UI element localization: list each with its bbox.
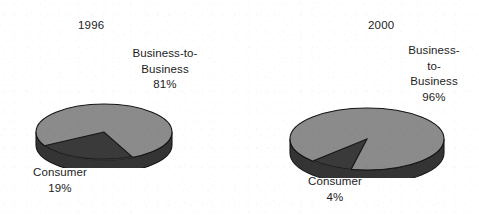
pie-chart-2000 bbox=[288, 102, 446, 178]
chart-panel-1996: 1996 Business-to- Business 81% Consumer … bbox=[0, 0, 239, 215]
chart-panel-2000: 2000 Business- to- Business 96% Consumer… bbox=[240, 0, 479, 215]
pie-chart-1996 bbox=[34, 98, 174, 168]
slice-label-line-1: Business- bbox=[391, 43, 477, 59]
slice-value: 4% bbox=[287, 190, 383, 206]
slice-label-consumer-1996: Consumer 19% bbox=[17, 165, 103, 196]
slice-label-consumer-2000: Consumer 4% bbox=[287, 174, 383, 205]
slice-label-business-to-business-2000: Business- to- Business 96% bbox=[391, 43, 477, 105]
slice-label-line-1: Business-to- bbox=[119, 46, 211, 62]
slice-label-line-2: Business bbox=[119, 62, 211, 78]
slice-value: 19% bbox=[17, 181, 103, 197]
chart-title-1996: 1996 bbox=[78, 19, 104, 31]
slice-label-business-to-business-1996: Business-to- Business 81% bbox=[119, 46, 211, 93]
chart-title-2000: 2000 bbox=[368, 19, 394, 31]
slice-label-line-2: to- bbox=[391, 59, 477, 75]
pie-chart-figure: 1996 Business-to- Business 81% Consumer … bbox=[0, 0, 479, 215]
slice-value: 81% bbox=[119, 77, 211, 93]
slice-label-line-3: Business bbox=[391, 74, 477, 90]
